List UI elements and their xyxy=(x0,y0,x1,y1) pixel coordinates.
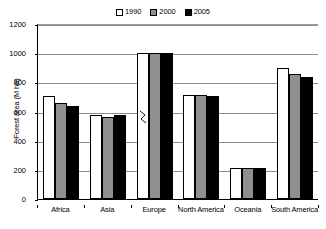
y-tick-label: 1000 xyxy=(0,50,26,58)
bar xyxy=(277,68,289,199)
x-tick-mark xyxy=(37,205,38,208)
legend-item-1990: 1990 xyxy=(116,8,141,16)
legend-label-2005: 2005 xyxy=(194,8,210,16)
chart-legend: 1990 2000 2005 xyxy=(0,6,326,18)
bar xyxy=(195,95,207,199)
x-tick-label: Asia xyxy=(84,205,131,214)
legend-label-1990: 1990 xyxy=(125,8,141,16)
legend-item-2005: 2005 xyxy=(185,8,210,16)
bar xyxy=(137,53,149,199)
x-tick-mark xyxy=(84,205,85,208)
x-axis-line xyxy=(38,199,318,200)
x-tick-label: Oceania xyxy=(224,205,271,214)
bar-groups xyxy=(38,24,318,199)
bar-group xyxy=(131,24,178,199)
bar xyxy=(289,74,301,199)
bar xyxy=(207,96,219,199)
bar xyxy=(242,168,254,199)
bar xyxy=(67,106,79,199)
bar xyxy=(55,103,67,199)
x-tick-mark xyxy=(318,205,319,208)
legend-label-2000: 2000 xyxy=(159,8,175,16)
plot-area: 020040060080010001200 xyxy=(37,24,318,200)
x-tick-mark xyxy=(131,205,132,208)
y-tick-label: 600 xyxy=(0,109,26,117)
bar xyxy=(149,53,161,199)
x-tick-label: South America xyxy=(271,205,318,214)
y-tick-label: 0 xyxy=(0,196,26,204)
bar-group xyxy=(225,24,272,199)
y-tick-label: 400 xyxy=(0,138,26,146)
bar xyxy=(183,95,195,199)
bar-group xyxy=(178,24,225,199)
bar xyxy=(43,96,55,199)
bar xyxy=(301,77,313,200)
y-tick-label: 1200 xyxy=(0,21,26,29)
bar-group xyxy=(85,24,132,199)
legend-swatch-2005 xyxy=(185,9,192,16)
legend-item-2000: 2000 xyxy=(150,8,175,16)
x-tick-label: North America xyxy=(177,205,224,214)
bar xyxy=(114,115,126,199)
x-tick-mark xyxy=(271,205,272,208)
legend-swatch-2000 xyxy=(150,9,157,16)
bar xyxy=(254,168,266,199)
x-tick-mark xyxy=(178,205,179,208)
y-tick-label: 200 xyxy=(0,167,26,175)
legend-swatch-1990 xyxy=(116,9,123,16)
x-tick-label: Africa xyxy=(37,205,84,214)
axis-break-icon xyxy=(139,110,149,124)
bar xyxy=(90,115,102,199)
bar xyxy=(230,168,242,199)
x-tick-label: Europe xyxy=(131,205,178,214)
bar-group xyxy=(271,24,318,199)
y-tick-label: 800 xyxy=(0,79,26,87)
x-tick-mark xyxy=(224,205,225,208)
bar xyxy=(102,117,114,199)
y-tick-mark xyxy=(35,200,38,201)
bar xyxy=(161,53,173,199)
x-axis-labels: AfricaAsiaEuropeNorth AmericaOceaniaSout… xyxy=(37,205,318,214)
bar-chart: 1990 2000 2005 Forest area (M ha) 020040… xyxy=(0,0,326,229)
bar-group xyxy=(38,24,85,199)
